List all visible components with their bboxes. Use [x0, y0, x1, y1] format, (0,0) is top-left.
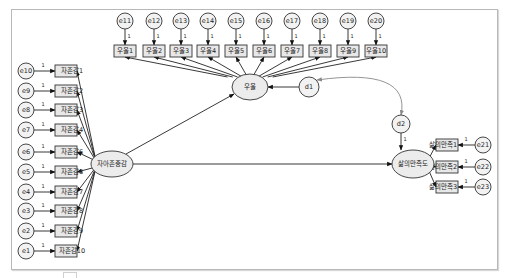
item-label: 우울1 [117, 47, 133, 55]
loading-depression-item [154, 57, 233, 77]
item-label: 우울3 [173, 47, 189, 55]
fixed-loading-label: 1 [322, 33, 325, 39]
loading-depression-item [125, 57, 228, 77]
error-label: e10 [20, 67, 32, 75]
latent-label: 우울 [244, 83, 256, 91]
error-label: e23 [477, 183, 489, 191]
item-label: 우울4 [200, 47, 216, 55]
latent-label: 삶의만족도 [398, 159, 428, 168]
fixed-loading-label: 1 [41, 163, 44, 169]
disturbance-label: d1 [305, 83, 313, 91]
item-label: 자존감4 [61, 125, 83, 134]
loading-depression-item [263, 57, 320, 77]
item-label: 우울2 [146, 47, 162, 55]
fixed-loading-label: 1 [127, 33, 130, 39]
error-label: e15 [230, 17, 242, 25]
fixed-loading-label: 1 [464, 158, 467, 164]
fixed-loading-label: 1 [41, 62, 44, 68]
fixed-loading-label: 1 [41, 222, 44, 228]
item-label: 삶의만족3 [429, 182, 457, 191]
item-label: 자존감6 [61, 167, 83, 176]
error-label: e1 [22, 247, 30, 255]
item-label: 자존감9 [61, 226, 83, 235]
error-label: e9 [22, 87, 30, 95]
loading-depression-item [268, 57, 348, 77]
item-label: 우울10 [366, 47, 386, 55]
covariance-d1-d2 [317, 77, 402, 115]
item-label: 자존감6 [61, 147, 83, 156]
error-label: e8 [22, 106, 30, 114]
fixed-loading-label: 1 [464, 178, 467, 184]
item-label: 우울7 [284, 47, 300, 55]
item-label: 자존감7 [61, 187, 83, 196]
item-label: 우울8 [312, 47, 328, 55]
item-label: 자존감8 [61, 206, 83, 215]
loading-depression-item [181, 57, 238, 77]
fixed-loading-label: 1 [210, 33, 213, 39]
item-label: 자존감3 [61, 105, 83, 114]
fixed-loading-label: 1 [41, 202, 44, 208]
item-label: 우울6 [256, 47, 272, 55]
item-label: 우울5 [228, 47, 244, 55]
error-label: e5 [22, 168, 30, 176]
fixed-loading-label: 1 [464, 136, 467, 142]
fixed-loading-label: 1 [294, 33, 297, 39]
fixed-loading-label: 1 [41, 82, 44, 88]
item-label: 자존감10 [59, 246, 85, 255]
fixed-loading-label: 1 [350, 33, 353, 39]
fixed-loading-label: 1 [183, 33, 186, 39]
error-label: e16 [258, 17, 270, 25]
error-label: e17 [286, 17, 298, 25]
fixed-loading-label: 1 [238, 33, 241, 39]
fixed-loading-label: 1 [41, 242, 44, 248]
error-label: e6 [22, 148, 30, 156]
error-label: e21 [477, 141, 489, 149]
page-tab-indicator [63, 272, 77, 278]
error-label: e20 [370, 17, 382, 25]
fixed-loading-label: 1 [403, 136, 406, 142]
item-label: 자존감2 [61, 86, 83, 95]
loading-depression-item [273, 57, 376, 77]
error-label: e3 [22, 207, 30, 215]
error-label: e11 [119, 17, 131, 25]
error-label: e14 [202, 17, 214, 25]
item-label: 삶의만족1 [429, 140, 457, 149]
fixed-loading-label: 1 [41, 183, 44, 189]
error-label: e12 [148, 17, 160, 25]
item-label: 우울9 [340, 47, 356, 55]
item-label: 자존감1 [61, 66, 83, 75]
error-label: e2 [22, 227, 30, 235]
fixed-loading-label: 1 [156, 33, 159, 39]
fixed-loading-label: 1 [266, 33, 269, 39]
fixed-loading-label: 1 [41, 101, 44, 107]
error-label: e18 [314, 17, 326, 25]
path-self-esteem-to-depression [126, 94, 234, 154]
loading-self-esteem-item [77, 167, 96, 231]
latent-label: 자아존중감 [97, 159, 127, 168]
error-label: e19 [342, 17, 354, 25]
disturbance-label: d2 [397, 120, 405, 128]
fixed-loading-label: 1 [41, 143, 44, 149]
error-label: e22 [477, 163, 489, 171]
fixed-loading-label: 1 [378, 33, 381, 39]
error-label: e7 [22, 126, 30, 134]
fixed-loading-label: 1 [41, 121, 44, 127]
error-label: e13 [175, 17, 187, 25]
error-label: e4 [22, 188, 30, 196]
